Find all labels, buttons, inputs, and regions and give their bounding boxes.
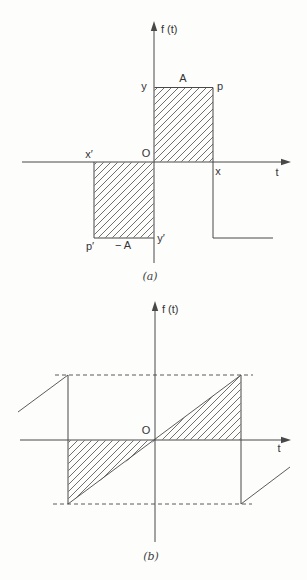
page: f (t) y A p x′ O x t p′ − A y′ (a) xyxy=(0,0,307,580)
fb-ramp-previous-period xyxy=(18,375,68,412)
fa-label-p-prime: p′ xyxy=(86,240,94,252)
fa-label-negative-amplitude: − A xyxy=(115,239,132,251)
fa-label-p: p xyxy=(217,80,223,92)
fa-origin-label: O xyxy=(142,147,151,159)
fb-y-axis-label: f (t) xyxy=(162,303,179,315)
fa-x-axis-label: t xyxy=(275,166,278,178)
fb-origin-label: O xyxy=(142,424,151,436)
fb-x-axis-arrow-icon xyxy=(281,437,291,443)
fa-label-amplitude: A xyxy=(179,72,187,84)
fa-label-y-prime: y′ xyxy=(157,232,165,244)
figure-canvas: f (t) y A p x′ O x t p′ − A y′ (a) xyxy=(0,0,307,580)
fa-label-y: y xyxy=(141,80,147,92)
fa-label-x: x xyxy=(215,165,221,177)
fa-y-axis-arrow-icon xyxy=(151,21,157,31)
fb-caption: (b) xyxy=(143,550,159,563)
fa-x-axis-arrow-icon xyxy=(281,159,291,165)
fa-y-axis-label: f (t) xyxy=(161,23,178,35)
fb-x-axis-label: t xyxy=(277,442,280,454)
fa-positive-pulse-area xyxy=(155,88,214,162)
figure-a: f (t) y A p x′ O x t p′ − A y′ (a) xyxy=(22,21,291,283)
fa-label-x-prime: x′ xyxy=(85,148,93,160)
fb-ramp-next-period xyxy=(241,467,290,504)
fa-caption: (a) xyxy=(142,270,157,283)
fa-negative-pulse-area xyxy=(95,163,154,238)
figure-b: f (t) O t (b) xyxy=(18,301,291,563)
fb-y-axis-arrow-icon xyxy=(152,301,158,311)
